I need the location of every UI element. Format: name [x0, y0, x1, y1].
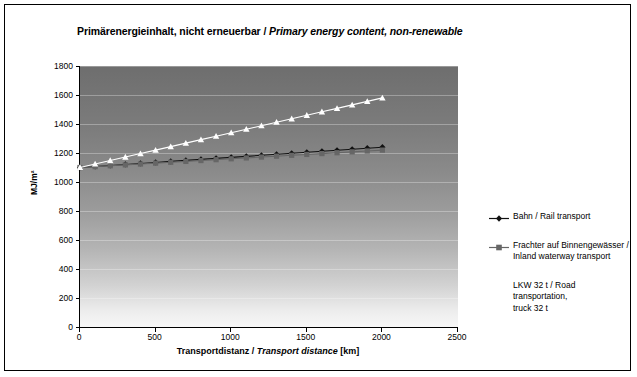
- data-point-marker: [334, 150, 339, 155]
- data-point-marker: [123, 162, 128, 167]
- data-point-marker: [138, 161, 143, 166]
- legend-label-barge: Frachter auf Binnengewässer / Inland wat…: [513, 240, 629, 263]
- data-point-marker: [183, 159, 188, 164]
- legend-marker-diamond-icon: [489, 214, 509, 223]
- x-axis-title-english: Transport distance: [257, 346, 338, 356]
- x-axis-tick: [230, 328, 231, 332]
- chart-legend: Bahn / Rail transport Frachter auf Binne…: [489, 211, 629, 331]
- y-axis-tick-label: 0: [68, 322, 73, 332]
- legend-item-truck: LKW 32 t / Road transportation, truck 32…: [489, 280, 629, 315]
- x-axis-tick-label: 2000: [372, 332, 391, 342]
- legend-marker-triangle-icon: [489, 283, 509, 292]
- x-axis-tick: [306, 328, 307, 332]
- y-axis-tick-label: 1200: [54, 148, 73, 158]
- legend-label-rail: Bahn / Rail transport: [513, 211, 629, 223]
- x-axis-tick: [155, 328, 156, 332]
- chart-title-separator: /: [261, 25, 269, 37]
- chart-frame: Primärenergieinhalt, nicht erneuerbar / …: [4, 4, 631, 371]
- y-axis-tick-label: 1600: [54, 90, 73, 100]
- legend-item-barge: Frachter auf Binnengewässer / Inland wat…: [489, 240, 629, 263]
- data-point-marker: [259, 154, 264, 159]
- x-axis-tick: [457, 328, 458, 332]
- y-axis-tick-labels: 020040060080010001200140016001800: [39, 66, 73, 327]
- y-axis-tick-label: 600: [59, 235, 73, 245]
- x-axis-tick-label: 2500: [448, 332, 467, 342]
- data-point-marker: [274, 154, 279, 159]
- data-point-marker: [198, 158, 203, 163]
- x-axis-tick-label: 1000: [221, 332, 240, 342]
- x-axis-tick-label: 1500: [296, 332, 315, 342]
- data-point-marker: [319, 151, 324, 156]
- x-axis-tick-label: 0: [77, 332, 82, 342]
- x-axis-tick: [381, 328, 382, 332]
- data-point-marker: [229, 156, 234, 161]
- legend-label-truck: LKW 32 t / Road transportation, truck 32…: [513, 280, 629, 315]
- chart-title-german: Primärenergieinhalt, nicht erneuerbar: [77, 25, 261, 37]
- x-axis-title-unit: [km]: [340, 346, 359, 356]
- y-axis-tick-label: 200: [59, 293, 73, 303]
- y-axis-tick-label: 1400: [54, 119, 73, 129]
- data-point-marker: [289, 153, 294, 158]
- y-axis-tick-label: 400: [59, 264, 73, 274]
- x-axis-title-separator: /: [249, 346, 257, 356]
- y-axis-tick-label: 1800: [54, 61, 73, 71]
- data-point-marker: [153, 161, 158, 166]
- data-point-marker: [379, 95, 385, 101]
- data-point-marker: [168, 160, 173, 165]
- data-point-marker: [380, 148, 385, 153]
- x-axis-title: Transportdistanz / Transport distance [k…: [79, 346, 457, 356]
- data-point-marker: [244, 155, 249, 160]
- data-point-marker: [304, 152, 309, 157]
- chart-page: Primärenergieinhalt, nicht erneuerbar / …: [0, 0, 637, 377]
- x-axis-tick-labels: 05001000150020002500: [79, 328, 457, 342]
- legend-item-rail: Bahn / Rail transport: [489, 211, 629, 223]
- x-axis-title-german: Transportdistanz: [177, 346, 250, 356]
- chart-title-english: Primary energy content, non-renewable: [269, 25, 463, 37]
- data-point-marker: [213, 157, 218, 162]
- chart-title: Primärenergieinhalt, nicht erneuerbar / …: [77, 25, 497, 37]
- data-point-marker: [108, 163, 113, 168]
- x-axis-tick: [79, 328, 80, 332]
- legend-marker-square-icon: [489, 243, 509, 252]
- data-point-marker: [365, 148, 370, 153]
- data-series-layer: [80, 66, 458, 327]
- x-axis-tick-label: 500: [148, 332, 162, 342]
- y-axis-tick-label: 800: [59, 206, 73, 216]
- data-point-marker: [350, 149, 355, 154]
- plot-area: [79, 66, 458, 328]
- y-axis-tick-label: 1000: [54, 177, 73, 187]
- y-axis-title: MJ/m²: [29, 170, 39, 195]
